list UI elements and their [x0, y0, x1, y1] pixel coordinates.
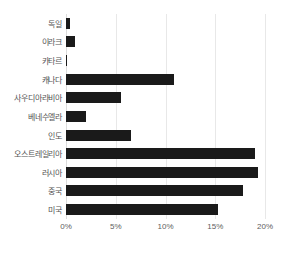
bar-row: [66, 89, 265, 108]
category-label: 오스트레일리아: [0, 144, 62, 163]
bar-row: [66, 70, 265, 89]
x-tick-label: 5%: [110, 222, 122, 231]
category-label: 러시아: [0, 163, 62, 182]
category-label: 미국: [0, 200, 62, 219]
gridline-20: [265, 14, 266, 219]
bar-row: [66, 107, 265, 126]
bar: [66, 92, 121, 103]
bar: [66, 18, 70, 29]
bar-row: [66, 200, 265, 219]
plot-area: [66, 14, 265, 219]
category-axis-labels: 독일이라크카타르캐나다사우디아라비아베네수엘라인도오스트레일리아러시아중국미국: [0, 14, 62, 219]
bar-row: [66, 182, 265, 201]
bar: [66, 36, 75, 47]
x-tick-label: 10%: [157, 222, 173, 231]
category-label: 중국: [0, 182, 62, 201]
bar: [66, 74, 174, 85]
category-label: 사우디아라비아: [0, 89, 62, 108]
bar: [66, 111, 86, 122]
bar: [66, 130, 131, 141]
bar-chart: 독일이라크카타르캐나다사우디아라비아베네수엘라인도오스트레일리아러시아중국미국 …: [0, 0, 291, 253]
bar-row: [66, 51, 265, 70]
bar-row: [66, 163, 265, 182]
category-label: 독일: [0, 14, 62, 33]
category-label: 이라크: [0, 33, 62, 52]
category-label: 카타르: [0, 51, 62, 70]
category-label: 베네수엘라: [0, 107, 62, 126]
bar-rows: [66, 14, 265, 219]
value-axis-labels: 0%5%10%15%20%: [66, 222, 265, 238]
bar-row: [66, 14, 265, 33]
bar: [66, 148, 255, 159]
x-tick-label: 20%: [257, 222, 273, 231]
bar: [66, 204, 218, 215]
bar-row: [66, 144, 265, 163]
category-label: 인도: [0, 126, 62, 145]
x-tick-label: 0%: [60, 222, 72, 231]
category-label: 캐나다: [0, 70, 62, 89]
bar-row: [66, 33, 265, 52]
bar-row: [66, 126, 265, 145]
bar: [66, 167, 258, 178]
bar: [66, 55, 67, 66]
x-tick-label: 15%: [207, 222, 223, 231]
bar: [66, 185, 243, 196]
